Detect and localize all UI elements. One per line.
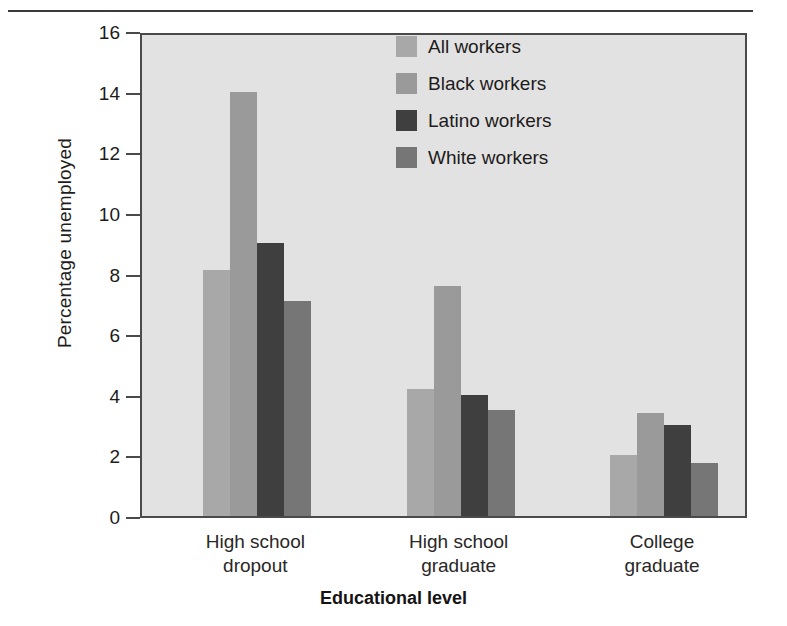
bar	[637, 413, 664, 516]
bar	[230, 92, 257, 516]
x-axis-title: Educational level	[0, 588, 787, 609]
legend-swatch-icon	[396, 36, 417, 57]
x-axis-tick-label-line: graduate	[359, 554, 559, 578]
bar	[664, 425, 691, 516]
y-axis-tick-label: 8	[78, 265, 120, 287]
y-axis-tick	[126, 32, 140, 34]
y-axis-tick-label: 12	[78, 143, 120, 165]
legend-item-label: All workers	[428, 36, 521, 58]
bar	[461, 395, 488, 516]
y-axis-tick	[126, 275, 140, 277]
legend-swatch-icon	[396, 110, 417, 131]
bar	[488, 410, 515, 516]
y-axis-tick	[126, 153, 140, 155]
legend: All workersBlack workersLatino workersWh…	[396, 28, 552, 176]
y-axis-tick-label: 14	[78, 83, 120, 105]
x-axis-tick-label-line: dropout	[155, 554, 355, 578]
legend-item: White workers	[396, 139, 552, 176]
y-axis-tick	[126, 456, 140, 458]
legend-item-label: Latino workers	[428, 110, 552, 132]
x-axis-tick-label-line: High school	[359, 530, 559, 554]
x-axis-tick-label: High schooldropout	[155, 530, 355, 578]
figure: Percentage unemployed Educational level …	[0, 0, 787, 626]
bar	[610, 455, 637, 516]
legend-swatch-icon	[396, 147, 417, 168]
legend-item: All workers	[396, 28, 552, 65]
x-axis-tick-label: Collegegraduate	[562, 530, 762, 578]
legend-item: Black workers	[396, 65, 552, 102]
legend-swatch-icon	[396, 73, 417, 94]
y-axis-tick-label: 0	[78, 507, 120, 529]
header-rule	[8, 10, 753, 12]
legend-item: Latino workers	[396, 102, 552, 139]
bar	[407, 389, 434, 516]
y-axis-title: Percentage unemployed	[54, 83, 76, 403]
x-axis-tick-label-line: College	[562, 530, 762, 554]
legend-item-label: Black workers	[428, 73, 546, 95]
x-axis-tick-label: High schoolgraduate	[359, 530, 559, 578]
y-axis-tick-label: 2	[78, 446, 120, 468]
y-axis-tick	[126, 214, 140, 216]
bar	[434, 286, 461, 516]
x-axis-tick-label-line: graduate	[562, 554, 762, 578]
y-axis-tick-label: 10	[78, 204, 120, 226]
y-axis-tick-label: 6	[78, 325, 120, 347]
legend-item-label: White workers	[428, 147, 548, 169]
y-axis-tick	[126, 335, 140, 337]
y-axis-tick	[126, 517, 140, 519]
y-axis-tick-label: 4	[78, 386, 120, 408]
y-axis-tick	[126, 396, 140, 398]
x-axis-tick-label-line: High school	[155, 530, 355, 554]
bar	[284, 301, 311, 516]
y-axis-tick	[126, 93, 140, 95]
bar	[203, 270, 230, 516]
bar	[257, 243, 284, 516]
y-axis-tick-label: 16	[78, 22, 120, 44]
bar	[691, 463, 718, 516]
